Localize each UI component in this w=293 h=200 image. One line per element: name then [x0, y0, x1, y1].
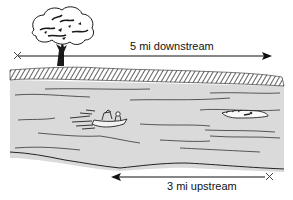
- x-mark-icon: [266, 173, 273, 180]
- river: [10, 80, 284, 172]
- tree: [32, 7, 93, 66]
- upstream-label: 3 mi upstream: [167, 181, 237, 192]
- downstream-arrow: [14, 52, 272, 60]
- river-scene: [0, 0, 293, 200]
- downstream-label: 5 mi downstream: [130, 41, 214, 52]
- river-diagram: 5 mi downstream 3 mi upstream: [0, 0, 293, 200]
- crocodile: [222, 110, 268, 118]
